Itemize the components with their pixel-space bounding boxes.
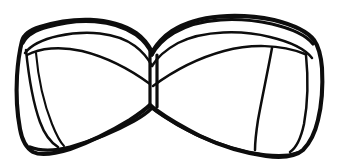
bandeau-bra-drawing [0,0,338,168]
illustration-canvas [0,0,338,168]
